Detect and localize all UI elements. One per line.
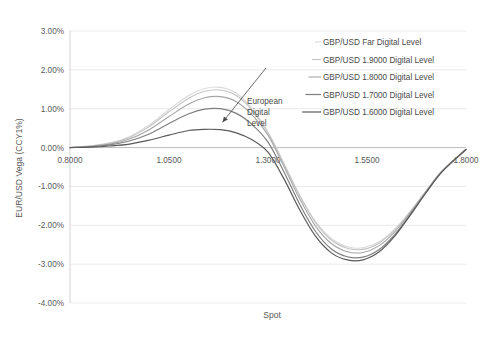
annotation-line-1: European	[247, 97, 283, 106]
figure-caption-cropped	[30, 330, 470, 339]
x-tick-label: 1.0500	[156, 156, 181, 165]
legend-label-2: GBP/USD 1.8000 Digital Level	[323, 73, 434, 82]
y-axis-title: EUR/USD Vega (CCY1%)	[14, 118, 24, 217]
y-tick-label: 2.00%	[41, 66, 64, 75]
x-tick-labels: 0.80001.05001.30001.55001.8000	[57, 156, 478, 165]
x-tick-label: 0.8000	[57, 156, 82, 165]
legend: GBP/USD Far Digital LevelGBP/USD 1.9000 …	[302, 38, 434, 117]
y-tick-label: -4.00%	[38, 299, 64, 308]
annotation-arrow-head	[223, 116, 228, 122]
x-tick-label: 1.5500	[354, 156, 379, 165]
y-tick-label: -1.00%	[38, 182, 64, 191]
series-line-4	[70, 129, 466, 261]
legend-label-0: GBP/USD Far Digital Level	[323, 38, 421, 47]
y-tick-label: 1.00%	[41, 105, 64, 114]
annotation-line-2: Digital	[247, 108, 270, 117]
annotation-text: EuropeanDigitalLevel	[247, 97, 283, 128]
chart-svg: 3.00%2.00%1.00%0.00%-1.00%-2.00%-3.00%-4…	[0, 0, 487, 341]
series-line-2	[70, 96, 466, 253]
annotation-line-3: Level	[247, 119, 267, 128]
series-line-3	[70, 108, 466, 258]
legend-label-4: GBP/USD 1.6000 Digital Level	[323, 108, 434, 117]
gridlines	[70, 31, 466, 303]
y-tick-labels: 3.00%2.00%1.00%0.00%-1.00%-2.00%-3.00%-4…	[38, 27, 64, 308]
x-tick-label: 1.3000	[255, 156, 280, 165]
y-tick-label: 0.00%	[41, 144, 64, 153]
legend-label-1: GBP/USD 1.9000 Digital Level	[323, 56, 434, 65]
legend-label-3: GBP/USD 1.7000 Digital Level	[323, 91, 434, 100]
y-tick-label: -3.00%	[38, 260, 64, 269]
y-tick-label: 3.00%	[41, 27, 64, 36]
vega-line-chart: 3.00%2.00%1.00%0.00%-1.00%-2.00%-3.00%-4…	[0, 0, 487, 341]
y-tick-label: -2.00%	[38, 221, 64, 230]
x-axis-title: Spot	[263, 310, 281, 320]
